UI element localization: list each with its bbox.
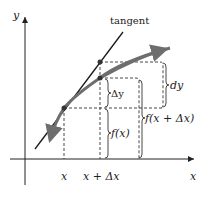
diagram-canvas: tangent y x x x + Δx Δy dy f(x) f(x + Δx… (0, 0, 207, 197)
y-axis-label: y (12, 9, 20, 22)
x-plus-dx-tick-label: x + Δx (83, 170, 120, 183)
brace-dy (163, 63, 169, 107)
delta-y-label: Δy (111, 88, 124, 99)
x-axis-label: x (190, 170, 197, 183)
point-tangent (98, 60, 103, 65)
point-x (62, 106, 67, 111)
dashed-guides (64, 62, 163, 159)
point-curve (98, 76, 103, 81)
braces (105, 63, 169, 158)
tangent-label: tangent (110, 15, 149, 26)
dy-label: dy (170, 79, 184, 92)
f-x-dx-label: f(x + Δx) (144, 112, 194, 125)
f-x-label: f(x) (110, 127, 130, 140)
tangent-line (35, 32, 123, 149)
x-tick-label: x (61, 170, 68, 183)
